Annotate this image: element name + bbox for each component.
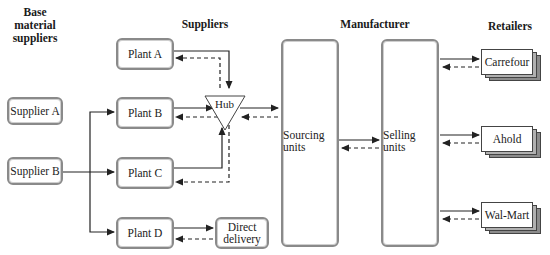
node-plant-d: Plant D <box>116 217 174 249</box>
arrow-plantc-hub <box>173 128 222 168</box>
node-label: Selling <box>383 129 416 141</box>
node-label: Supplier A <box>10 105 60 117</box>
node-label: Wal-Mart <box>481 202 533 228</box>
node-supplier-a: Supplier A <box>7 97 63 125</box>
arrow-planta-hub <box>173 51 229 88</box>
node-plant-c: Plant C <box>116 157 174 189</box>
node-retailer-ahold: Ahold <box>481 126 541 152</box>
node-label: Ahold <box>481 126 533 152</box>
node-sourcing-units: Sourcing units <box>281 39 339 247</box>
node-plant-b: Plant B <box>116 97 174 129</box>
node-label: Direct <box>228 221 257 233</box>
dashed-hub-plantc <box>176 118 229 182</box>
node-label: delivery <box>223 233 261 245</box>
node-supplier-b: Supplier B <box>7 157 63 185</box>
node-label: Carrefour <box>481 49 533 75</box>
node-selling-units: Selling units <box>381 39 439 247</box>
hub-label: Hub <box>215 98 234 110</box>
node-direct-delivery: Direct delivery <box>215 217 269 249</box>
flow-connectors <box>0 0 550 255</box>
arrow-supplierb-plantb <box>90 112 114 172</box>
node-retailer-carrefour: Carrefour <box>481 49 541 75</box>
node-label: Supplier B <box>10 165 60 177</box>
node-label: Plant D <box>128 227 163 239</box>
node-label: Plant C <box>128 167 162 179</box>
node-label: units <box>383 141 405 153</box>
node-label: Plant B <box>128 107 162 119</box>
node-label: Sourcing <box>283 129 325 141</box>
node-label: Plant A <box>128 48 162 60</box>
node-plant-a: Plant A <box>116 38 174 70</box>
arrow-supplierb-plantd <box>90 172 114 232</box>
node-retailer-walmart: Wal-Mart <box>481 202 541 228</box>
dashed-hub-planta <box>176 58 220 88</box>
node-label: units <box>283 141 305 153</box>
